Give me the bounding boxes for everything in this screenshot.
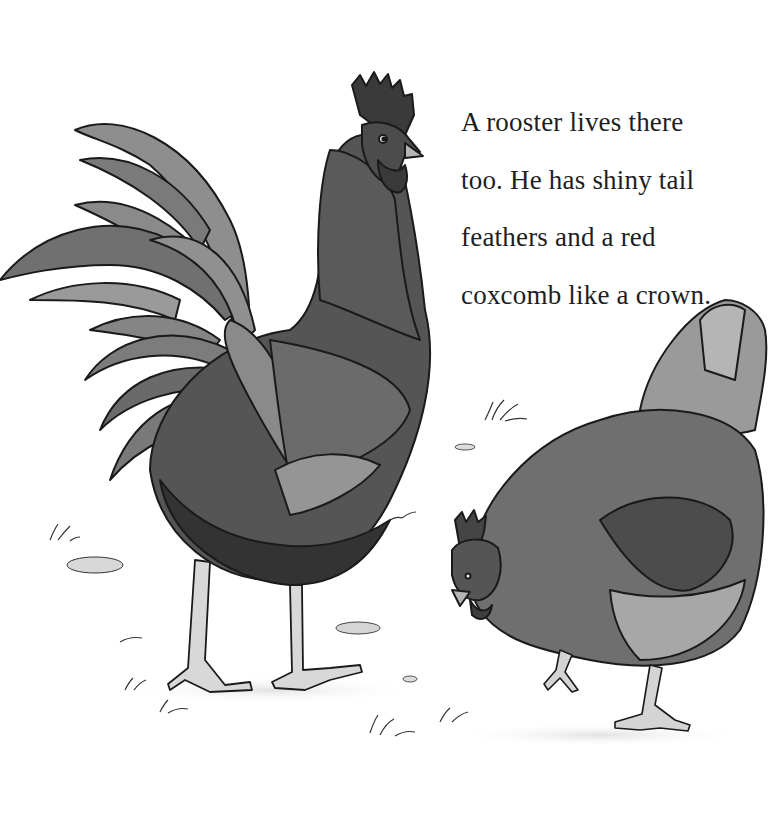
story-line-4: coxcomb like a crown.	[461, 267, 761, 325]
story-line-1: A rooster lives there	[461, 94, 761, 152]
story-line-2: too. He has shiny tail	[461, 152, 761, 210]
storybook-page: A rooster lives there too. He has shiny …	[0, 0, 775, 827]
story-text-block: A rooster lives there too. He has shiny …	[461, 94, 761, 324]
story-line-3: feathers and a red	[461, 209, 761, 267]
hen	[452, 300, 766, 731]
